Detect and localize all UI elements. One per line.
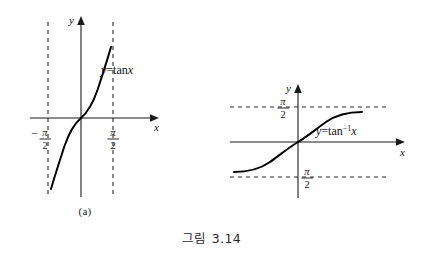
- fraction-denominator: 2: [304, 179, 309, 190]
- fraction-numerator: π: [304, 166, 310, 177]
- panel-tan-graph: x y − π 2 π 2 y=tanx (a): [0, 0, 215, 235]
- tan-graph-svg: x y − π 2 π 2 y=tanx: [0, 0, 215, 235]
- eq-exponent: −1: [343, 124, 352, 133]
- tick-label-neg-half-pi: π 2: [302, 166, 314, 190]
- figure-caption-prefix: 그림: [182, 231, 207, 246]
- x-axis-arrow-icon: [396, 138, 405, 146]
- eq-func: tan: [113, 63, 128, 77]
- y-axis-arrow-icon: [77, 16, 85, 25]
- fraction-numerator: π: [110, 127, 116, 138]
- fraction-denominator: 2: [110, 140, 115, 151]
- figure-caption: 그림3.14: [0, 228, 423, 247]
- eq-func: tan: [328, 124, 343, 138]
- tick-label-pos-half-pi: π 2: [108, 127, 120, 151]
- eq-arg: x: [350, 124, 357, 138]
- tick-label-neg-half-pi: − π 2: [31, 127, 51, 151]
- y-axis-label: y: [285, 82, 291, 94]
- minus-sign-glyph: −: [31, 127, 37, 139]
- svg-text:y=tanx: y=tanx: [100, 63, 134, 77]
- curve-equation-label: y=tanx: [100, 63, 134, 77]
- fraction-numerator: π: [280, 96, 286, 107]
- figure-caption-number: 3.14: [212, 231, 241, 246]
- panel-arctan-graph: x y π 2 π 2 y=tan−1x (b): [208, 0, 423, 235]
- y-axis-label: y: [68, 14, 74, 26]
- y-axis-arrow-icon: [294, 84, 302, 93]
- fraction-denominator: 2: [42, 140, 47, 151]
- panel-a-caption: (a): [55, 205, 115, 217]
- figure-3-14: x y − π 2 π 2 y=tanx (a): [0, 0, 423, 259]
- fraction-denominator: 2: [280, 109, 285, 120]
- tick-label-pos-half-pi: π 2: [278, 96, 290, 120]
- svg-text:y=tan−1x: y=tan−1x: [315, 124, 357, 139]
- eq-arg: x: [127, 63, 134, 77]
- x-axis-label: x: [399, 146, 405, 158]
- curve-equation-label: y=tan−1x: [315, 124, 357, 139]
- fraction-numerator: π: [42, 127, 48, 138]
- x-axis-label: x: [153, 121, 159, 133]
- arctan-graph-svg: x y π 2 π 2 y=tan−1x: [208, 0, 423, 235]
